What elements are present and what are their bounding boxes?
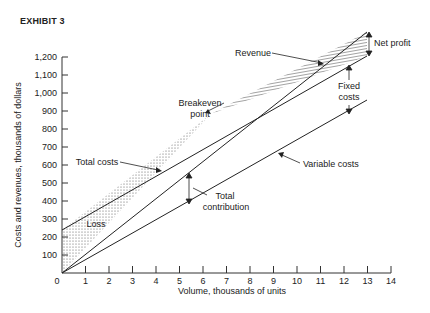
y-axis-title: Costs and revenues, thousands of dollars	[13, 82, 23, 248]
x-axis-title: Volume, thousands of units	[178, 286, 287, 296]
svg-text:10: 10	[292, 276, 302, 286]
variable-costs-line	[62, 100, 367, 273]
svg-text:6: 6	[200, 276, 205, 286]
svg-text:7: 7	[224, 276, 229, 286]
x-tick-labels: 0 1 2 3 4 5 6 7 8 9 10 11 12 13 14	[54, 276, 396, 286]
total-costs-label: Total costs	[76, 157, 119, 167]
svg-text:0: 0	[54, 276, 59, 286]
svg-text:500: 500	[42, 178, 57, 188]
svg-text:14: 14	[386, 276, 396, 286]
svg-text:1,000: 1,000	[34, 88, 57, 98]
total-contribution-label-2: contribution	[203, 202, 250, 212]
svg-text:3: 3	[130, 276, 135, 286]
revenue-label: Revenue	[235, 48, 271, 58]
svg-text:600: 600	[42, 160, 57, 170]
svg-text:800: 800	[42, 124, 57, 134]
svg-text:700: 700	[42, 142, 57, 152]
svg-text:1,100: 1,100	[34, 70, 57, 80]
svg-text:11: 11	[316, 276, 325, 286]
svg-text:4: 4	[153, 276, 158, 286]
svg-text:1,200: 1,200	[34, 52, 57, 62]
breakeven-chart: 1,200 1,100 1,000 900 800 700 600 500 40…	[0, 0, 430, 313]
svg-text:400: 400	[42, 196, 57, 206]
svg-text:900: 900	[42, 106, 57, 116]
svg-text:200: 200	[42, 232, 57, 242]
svg-text:1: 1	[83, 276, 88, 286]
total-contribution-arrows	[186, 173, 192, 204]
svg-text:100: 100	[42, 250, 57, 260]
total-contribution-label-1: Total	[215, 191, 234, 201]
loss-label: Loss	[86, 219, 106, 229]
svg-text:2: 2	[106, 276, 111, 286]
fixed-costs-label-2: costs	[338, 92, 360, 102]
svg-text:300: 300	[42, 214, 57, 224]
x-axis	[62, 266, 391, 273]
revenue-line	[62, 32, 367, 273]
svg-text:13: 13	[362, 276, 372, 286]
y-tick-labels: 1,200 1,100 1,000 900 800 700 600 500 40…	[34, 52, 57, 260]
fixed-costs-label-1: Fixed	[338, 81, 360, 91]
breakeven-label-1: Breakeven	[178, 98, 221, 108]
svg-text:5: 5	[177, 276, 182, 286]
variable-costs-label: Variable costs	[303, 159, 359, 169]
svg-text:8: 8	[247, 276, 252, 286]
svg-text:9: 9	[271, 276, 276, 286]
svg-text:12: 12	[339, 276, 349, 286]
net-profit-label: Net profit	[374, 38, 411, 48]
